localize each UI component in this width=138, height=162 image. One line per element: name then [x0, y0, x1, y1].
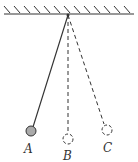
ball-c [102, 125, 112, 135]
pendulum-a: A [23, 15, 68, 156]
pendulum-diagram: A B C [0, 0, 138, 162]
ball-a [26, 126, 36, 136]
pendulum-b: B [62, 15, 73, 162]
label-c: C [103, 141, 112, 155]
label-a: A [23, 142, 33, 156]
pendulum-c: C [68, 15, 112, 155]
ceiling [4, 6, 134, 14]
ball-b [63, 134, 73, 144]
label-b: B [62, 149, 72, 162]
